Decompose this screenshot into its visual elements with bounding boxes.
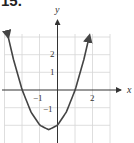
y-tick-label: 1 (50, 67, 55, 77)
x-tick-label: −1 (33, 93, 43, 103)
y-axis-label: y (54, 4, 60, 15)
x-tick-label: 2 (90, 93, 95, 103)
y-tick-label: −1 (43, 104, 53, 114)
graph: x y −1 2 2 1 −1 (0, 0, 134, 143)
x-axis-label: x (126, 84, 132, 95)
parabola-curve (8, 36, 89, 129)
y-tick-label: 2 (50, 49, 55, 59)
